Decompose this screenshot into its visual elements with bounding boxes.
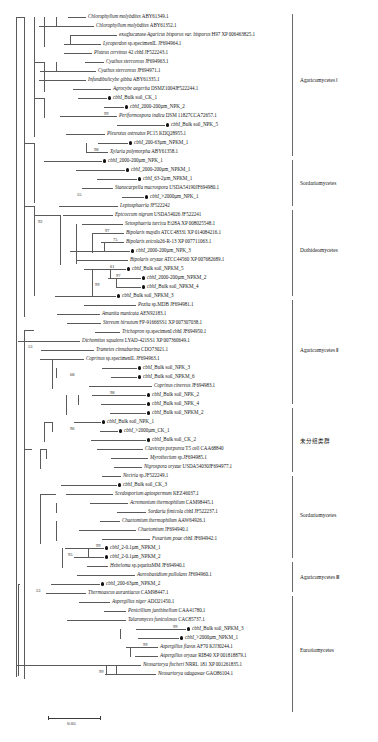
branch-connector: [104, 242, 105, 252]
branch-connector: [116, 665, 117, 675]
clone-marker-dot: [108, 96, 111, 99]
branch-line: [79, 530, 136, 531]
clone-marker-dot: [166, 123, 169, 126]
tip-label-reference: Chlorophyllum molybdites ABY61352.1: [96, 23, 177, 28]
tip-label-reference: Talaromyces funiculosus CAC85737.1: [128, 617, 205, 622]
branch-line: [18, 584, 20, 585]
tip-label-reference: Hebeloma sp.pquritaMM JF694940.1: [110, 563, 185, 568]
branch-line: [40, 449, 46, 450]
branch-line: [77, 575, 135, 576]
branch-line: [108, 278, 141, 279]
tip-label-clone: cbhI_Bulk soil_NPK_5: [171, 122, 218, 127]
branch-connector: [110, 269, 111, 279]
branch-line: [18, 341, 80, 342]
bootstrap-value: 99: [143, 643, 147, 647]
branch-line: [51, 584, 100, 585]
tip-label-clone: cbhI_Bulk soil_NPKM_6: [143, 374, 194, 379]
tip-label-clone: cbhI_Bulk soil_NPKM_5: [132, 266, 183, 271]
tip-label-reference: Trametes cinnabarina CDO73021.1: [96, 347, 168, 352]
tip-label-reference: exoglucanase Agaricus bisporus var. bisp…: [119, 32, 255, 37]
branch-line: [52, 359, 56, 360]
branch-line: [34, 62, 44, 63]
tip-label-reference: Aureobasidium pullulans JF694960.1: [137, 572, 212, 577]
tip-label-reference: Scedosporium apiospermum KEZ46037.1: [115, 491, 199, 496]
clone-marker-dot: [187, 627, 190, 630]
tip-label-reference: Nectria sp.JF522249.1: [123, 473, 168, 478]
scale-bar-tick-right: [100, 716, 101, 720]
branch-line: [66, 494, 113, 495]
tip-label-reference: Aspergillus flavus AF70 KJJ30244.1: [160, 644, 233, 649]
tip-label-clone: cbhI_2000-200µm_NPK_3: [136, 248, 191, 253]
scale-bar-label: 0.05: [67, 721, 76, 726]
branch-line: [100, 431, 118, 432]
branch-line: [84, 269, 126, 270]
tip-label-clone: cbhI_Bulk soil_CK_3: [123, 482, 167, 487]
branch-line: [104, 107, 124, 108]
branch-line: [136, 629, 186, 630]
branch-line: [117, 125, 165, 126]
branch-connector: [56, 530, 57, 540]
branch-line: [97, 179, 137, 180]
clade-bracket-agaricomycetes-3: [292, 562, 293, 592]
tip-label-reference: Xylaria polymorpha ABY61358.1: [110, 149, 178, 154]
branch-line: [55, 296, 116, 297]
branch-line: [105, 674, 156, 675]
bootstrap-value: 98: [110, 391, 114, 395]
tip-label-reference: Dichomitus squalens LYAD-421SS1 XP 00736…: [82, 338, 190, 343]
clade-label-unclassified: 未分组类群: [300, 437, 330, 445]
branch-line: [101, 404, 146, 405]
bootstrap-value: 97: [116, 274, 120, 278]
clade-label-eurotiomycetes: Eurotiomycetes: [300, 647, 334, 653]
branch-line: [66, 134, 105, 135]
clone-marker-dot: [105, 546, 108, 549]
bootstrap-value: 98: [94, 148, 98, 152]
tip-label-clone: cbhI_2-0.1µm_NPKM_2: [110, 554, 161, 559]
tip-label-reference: Claviceps purpurea T5 cell CAA68840: [145, 446, 224, 451]
tip-label-clone: cbhI_Bulk soil_CK_2: [152, 437, 196, 442]
tip-label-reference: Infundibulicybe gibba ABY61335.1: [88, 77, 160, 82]
branch-connector: [18, 584, 19, 676]
branch-line: [90, 503, 128, 504]
clone-marker-dot: [138, 177, 141, 180]
branch-line: [59, 206, 118, 207]
branch-line: [82, 188, 113, 189]
branch-line: [138, 638, 179, 639]
branch-line: [44, 422, 52, 423]
branch-line: [82, 224, 123, 225]
clade-bracket-dothideomycetes: [292, 210, 293, 296]
tip-label-reference: Nigrospora oryzae USDA54030JF694977.1: [144, 464, 232, 469]
branch-line: [97, 449, 143, 450]
branch-connector: [116, 278, 117, 288]
tip-label-clone: cbhI_Bulk soil_NPKM_3: [192, 626, 243, 631]
tip-label-reference: Stereum hirsutum FP-91666SS1 XP 00730703…: [103, 320, 202, 325]
branch-connector: [76, 224, 77, 264]
phylogenetic-tree: Chlorophyllum molybdites ABY61349.1Chlor…: [0, 0, 378, 742]
branch-connector: [44, 422, 45, 442]
branch-connector: [56, 62, 57, 72]
clone-marker-dot: [145, 195, 148, 198]
tip-label-reference: Acremonium thermophilum CAM98445.1: [130, 500, 213, 505]
branch-line: [76, 170, 125, 171]
branch-line: [114, 467, 142, 468]
clone-marker-dot: [119, 429, 122, 432]
branch-line: [60, 116, 117, 117]
bootstrap-value: 99: [99, 670, 103, 674]
branch-line: [85, 62, 104, 63]
bootstrap-value: 55: [77, 193, 81, 197]
branch-line: [63, 215, 113, 216]
branch-line: [39, 80, 86, 81]
branch-connector: [78, 395, 79, 405]
branch-line: [64, 53, 92, 54]
branch-connector: [92, 269, 93, 297]
tip-label-clone: cbhI_Bulk soil_NPK_4: [152, 401, 199, 406]
clade-label-sordariomycetes-2: Sordariomycetes: [300, 512, 336, 518]
branch-connector: [46, 449, 47, 459]
clone-marker-dot: [142, 276, 145, 279]
tip-label-reference: Epicoccum nigrum USDA54026 JF522241: [115, 212, 201, 217]
tip-label-reference: Chaetomium JF694940.1: [138, 527, 188, 532]
clade-bracket-unclassified: [292, 408, 293, 472]
branch-line: [16, 665, 106, 666]
tip-label-clone: cbhI_2-0.1µm_NPKM_1: [110, 545, 161, 550]
branch-line: [77, 260, 128, 261]
clone-marker-dot: [142, 285, 145, 288]
